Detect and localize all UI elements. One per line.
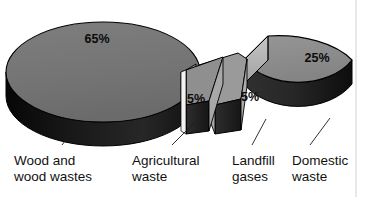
category-label-agricultural-line2: waste [131, 169, 167, 184]
category-label-wood-line1: Wood and [14, 153, 75, 168]
category-label-agricultural-line1: Agricultural [132, 153, 200, 168]
percent-label-landfill: 5% [241, 90, 259, 104]
category-label-landfill-line2: gases [232, 169, 268, 184]
category-label-domestic-line2: waste [291, 169, 327, 184]
category-label-domestic-line1: Domestic [292, 153, 349, 168]
pie-chart-figure: 65% 5% 5% 25% Wood and wood wastes Agric… [0, 0, 370, 197]
category-label-domestic-waste: Domestic waste [291, 153, 349, 184]
pie-chart-svg: 65% 5% 5% 25% Wood and wood wastes Agric… [0, 0, 370, 197]
category-label-agricultural-waste: Agricultural waste [131, 153, 200, 184]
leader-line-landfill [252, 119, 266, 145]
category-label-landfill-line1: Landfill [232, 153, 275, 168]
pie-slice-domestic-waste[interactable] [244, 36, 352, 107]
category-label-wood-line2: wood wastes [13, 169, 92, 184]
slice-gap [181, 70, 186, 134]
percent-label-domestic: 25% [304, 51, 329, 65]
slice-landfill-side [215, 99, 241, 134]
category-label-landfill-gases: Landfill gases [232, 153, 275, 184]
leader-line-domestic [310, 118, 330, 145]
category-label-wood-and-wood-wastes: Wood and wood wastes [13, 153, 92, 184]
percent-label-agricultural: 5% [187, 92, 205, 106]
percent-label-wood: 65% [84, 32, 109, 46]
